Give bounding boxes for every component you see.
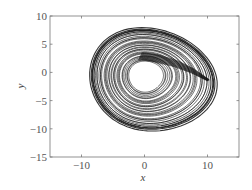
x-tick-label: 0 — [142, 159, 148, 171]
y-tick-label: −15 — [30, 151, 48, 163]
x-tick-label: 10 — [202, 159, 214, 171]
y-tick-label: −10 — [30, 123, 48, 135]
x-axis-label: x — [140, 171, 146, 183]
phase-portrait-chart: −10010 1050−5−10−15 x y — [0, 0, 252, 190]
y-tick-label: 10 — [36, 10, 48, 22]
y-tick-label: 0 — [42, 66, 48, 78]
y-axis-label: y — [14, 83, 26, 89]
y-tick-label: −5 — [35, 95, 47, 107]
y-tick-label: 5 — [42, 38, 48, 50]
x-tick-label: −10 — [73, 159, 91, 171]
